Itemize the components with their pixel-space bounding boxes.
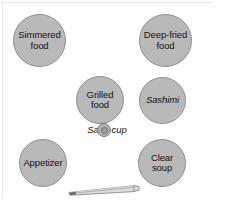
border-top-line	[2, 2, 212, 3]
dish-clear-soup-label: Clear soup	[139, 153, 185, 174]
border-left-line	[2, 2, 3, 198]
dish-simmered-food: Simmered food	[13, 14, 66, 67]
sake-cup-group: Sake cup	[76, 122, 138, 139]
dish-deep-fried-food: Deep-fried food	[139, 14, 192, 67]
dish-sashimi-label: Sashimi	[145, 95, 180, 106]
dish-appetizer: Appetizer	[19, 139, 67, 187]
dish-clear-soup: Clear soup	[138, 139, 186, 187]
dish-grilled-food-label: Grilled food	[86, 90, 115, 111]
chopsticks-icon	[68, 183, 140, 199]
dish-sashimi: Sashimi	[139, 77, 186, 124]
dish-deep-fried-food-label: Deep-fried food	[143, 30, 188, 51]
dish-appetizer-label: Appetizer	[22, 158, 63, 169]
sake-cup-icon	[97, 123, 111, 137]
dish-grilled-food: Grilled food	[76, 76, 124, 124]
table-setting-diagram: Simmered food Deep-fried food Grilled fo…	[0, 0, 232, 208]
dish-simmered-food-label: Simmered food	[17, 30, 62, 51]
